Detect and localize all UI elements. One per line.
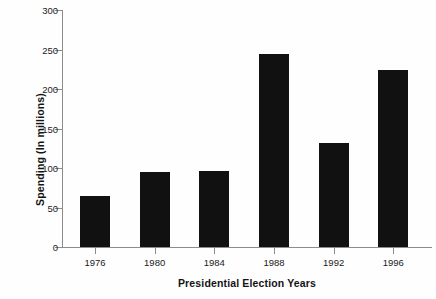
x-tick-mark	[214, 247, 215, 254]
x-tick-mark	[95, 247, 96, 254]
bar[interactable]	[199, 171, 229, 247]
y-tick-label: 50	[47, 202, 58, 213]
y-tick-label: 150	[42, 123, 58, 134]
bar-slot	[245, 10, 303, 247]
x-tick-label: 1980	[126, 257, 184, 268]
bar-slot	[185, 10, 243, 247]
y-tick-label: 300	[42, 5, 58, 16]
bar-slot	[305, 10, 363, 247]
x-tick-label: 1996	[364, 257, 422, 268]
y-tick-label: 100	[42, 163, 58, 174]
x-tick-mark	[334, 247, 335, 254]
x-tick-label: 1976	[66, 257, 124, 268]
x-tick-label: 1988	[245, 257, 303, 268]
bar[interactable]	[140, 172, 170, 247]
plot-area: 050100150200250300 197619801984198819921…	[62, 10, 432, 247]
x-tick-label: 1984	[185, 257, 243, 268]
x-axis-title: Presidential Election Years	[62, 277, 432, 289]
x-tick-label: 1992	[305, 257, 363, 268]
bar[interactable]	[378, 70, 408, 247]
y-axis-line	[62, 10, 63, 247]
bar-slot	[66, 10, 124, 247]
x-tick-mark	[155, 247, 156, 254]
bar[interactable]	[259, 54, 289, 247]
bar[interactable]	[319, 143, 349, 247]
bar-slot	[364, 10, 422, 247]
bar-chart: Spending (In millions) 05010015020025030…	[0, 0, 436, 299]
bar[interactable]	[80, 196, 110, 247]
y-tick-label: 200	[42, 84, 58, 95]
x-tick-mark	[274, 247, 275, 254]
x-tick-mark	[393, 247, 394, 254]
y-tick-label: 250	[42, 44, 58, 55]
y-tick-label: 0	[53, 242, 58, 253]
bar-slot	[126, 10, 184, 247]
x-axis-line	[62, 247, 432, 248]
